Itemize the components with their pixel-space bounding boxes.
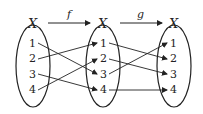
set2-element-1: 1 xyxy=(100,37,107,50)
set1-element-3: 3 xyxy=(29,68,36,81)
set2-element-3: 3 xyxy=(100,68,107,81)
set-label-3: X xyxy=(168,16,179,31)
set-label-1: X xyxy=(27,16,38,31)
f-map-2-to-1 xyxy=(38,43,97,59)
f-label: f xyxy=(66,8,73,21)
set2-element-4: 4 xyxy=(100,83,107,96)
f-map-3-to-4 xyxy=(38,74,97,90)
set1-element-2: 2 xyxy=(29,52,36,65)
g-label: g xyxy=(137,8,144,21)
set3-element-2: 2 xyxy=(170,52,177,65)
set3-element-4: 4 xyxy=(170,83,177,96)
set-label-2: X xyxy=(97,16,108,31)
function-composition-diagram: X X X f g 1 2 3 4 1 2 3 4 1 2 3 4 xyxy=(0,0,203,114)
set1-element-1: 1 xyxy=(29,37,36,50)
set3-element-3: 3 xyxy=(170,68,177,81)
g-map-2-to-3 xyxy=(109,59,167,74)
set3-element-1: 1 xyxy=(170,37,177,50)
set1-element-4: 4 xyxy=(29,83,36,96)
set2-element-2: 2 xyxy=(100,52,107,65)
